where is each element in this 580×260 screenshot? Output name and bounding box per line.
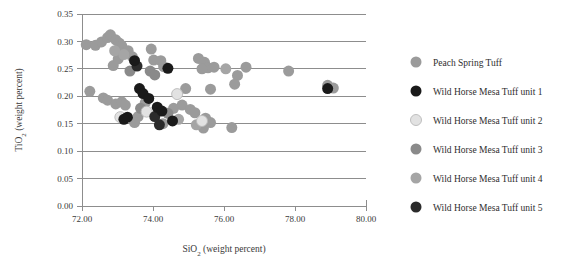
data-point: [283, 66, 294, 77]
data-points: [81, 29, 339, 133]
svg-text:SiO2 (weight percent): SiO2 (weight percent): [182, 244, 265, 258]
svg-text:TiO2 (weight percent): TiO2 (weight percent): [14, 68, 28, 151]
data-point: [84, 86, 95, 97]
data-point: [120, 100, 131, 111]
legend-label: Wild Horse Mesa Tuff unit 5: [433, 203, 543, 213]
data-point: [146, 44, 157, 55]
data-point: [162, 63, 173, 74]
x-tick-label: 80.00: [356, 214, 377, 224]
legend-marker-icon: [411, 86, 422, 97]
x-tick-label: 78.00: [285, 214, 306, 224]
y-tick-labels: 0.000.050.100.150.200.250.300.35: [57, 9, 73, 211]
data-point: [172, 89, 183, 100]
legend-label: Wild Horse Mesa Tuff unit 3: [433, 145, 543, 155]
y-tick-label: 0.10: [57, 146, 73, 156]
legend-item[interactable]: Wild Horse Mesa Tuff unit 4: [411, 173, 543, 184]
data-point: [322, 83, 333, 94]
legend-item[interactable]: Wild Horse Mesa Tuff unit 2: [411, 115, 543, 126]
y-axis-title: TiO2 (weight percent): [14, 68, 28, 151]
y-tick-label: 0.00: [57, 201, 73, 211]
y-tick-label: 0.20: [57, 91, 73, 101]
data-point: [241, 62, 252, 73]
x-tick-marks: [82, 206, 366, 211]
legend-item[interactable]: Wild Horse Mesa Tuff unit 1: [411, 86, 543, 97]
legend-marker-icon: [411, 202, 422, 213]
legend-label: Peach Spring Tuff: [433, 58, 503, 68]
scatter-plot: 0.000.050.100.150.200.250.300.35 72.0074…: [0, 0, 580, 260]
data-point: [205, 84, 216, 95]
legend: Peach Spring TuffWild Horse Mesa Tuff un…: [411, 57, 543, 213]
legend-label: Wild Horse Mesa Tuff unit 4: [433, 174, 543, 184]
data-point: [156, 106, 167, 117]
y-tick-label: 0.05: [57, 174, 73, 184]
data-point: [196, 63, 207, 74]
legend-item[interactable]: Wild Horse Mesa Tuff unit 5: [411, 202, 543, 213]
legend-item[interactable]: Peach Spring Tuff: [411, 57, 503, 68]
data-point: [149, 69, 160, 80]
legend-marker-icon: [411, 173, 422, 184]
data-point: [118, 114, 129, 125]
y-tick-label: 0.35: [57, 9, 73, 19]
legend-marker-icon: [411, 144, 422, 155]
data-point: [226, 122, 237, 133]
figure-container: 0.000.050.100.150.200.250.300.35 72.0074…: [0, 0, 580, 260]
data-point: [209, 62, 220, 73]
data-point: [118, 49, 129, 60]
data-point: [220, 63, 231, 74]
data-point: [229, 79, 240, 90]
data-point: [196, 115, 207, 126]
legend-label: Wild Horse Mesa Tuff unit 2: [433, 116, 543, 126]
data-point: [129, 55, 140, 66]
y-tick-label: 0.15: [57, 119, 73, 129]
data-point: [167, 115, 178, 126]
legend-marker-icon: [411, 115, 422, 126]
legend-item[interactable]: Wild Horse Mesa Tuff unit 3: [411, 144, 543, 155]
x-tick-labels: 72.0074.0076.0078.0080.00: [72, 214, 377, 224]
data-point: [108, 60, 119, 71]
x-axis-title: SiO2 (weight percent): [182, 244, 265, 258]
y-tick-label: 0.30: [57, 37, 73, 47]
x-tick-label: 72.00: [72, 214, 93, 224]
legend-marker-icon: [411, 57, 422, 68]
legend-label: Wild Horse Mesa Tuff unit 1: [433, 87, 543, 97]
data-point: [143, 93, 154, 104]
y-tick-label: 0.25: [57, 64, 73, 74]
x-tick-label: 74.00: [143, 214, 164, 224]
x-tick-label: 76.00: [214, 214, 235, 224]
